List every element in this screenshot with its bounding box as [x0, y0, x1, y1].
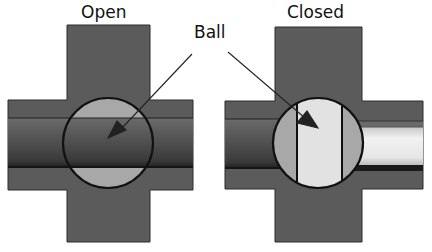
closed-label: Closed — [287, 2, 344, 22]
open-label: Open — [81, 2, 126, 22]
ball-label: Ball — [194, 22, 226, 42]
open-valve — [8, 25, 193, 242]
closed-valve — [225, 27, 423, 242]
